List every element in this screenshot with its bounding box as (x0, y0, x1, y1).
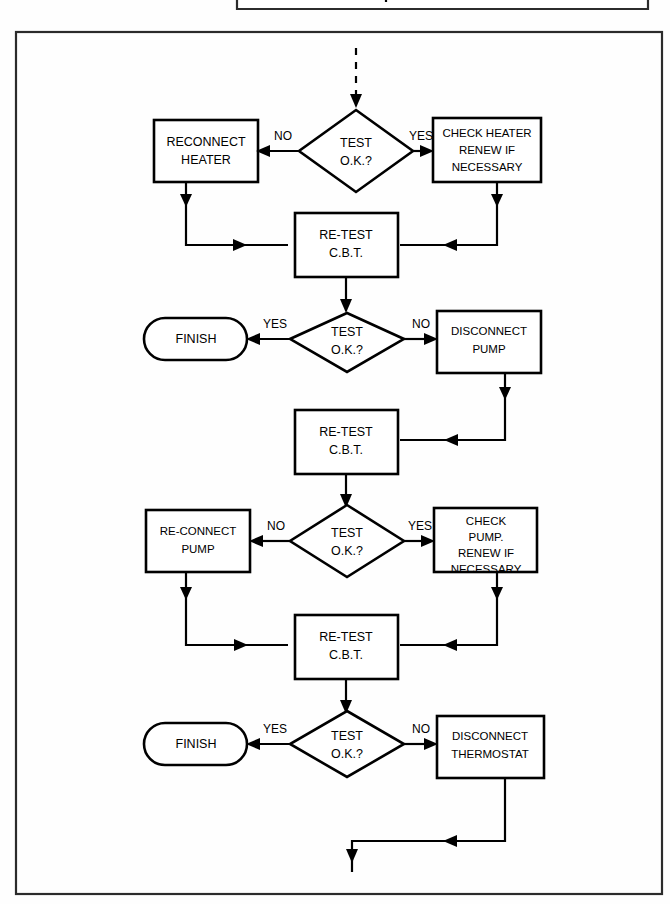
node-finish-2[interactable]: FINISH (144, 723, 247, 765)
arrowhead-down-5 (491, 587, 503, 600)
edge-label-no-1: NO (274, 129, 292, 143)
node-check-heater[interactable]: CHECK HEATER RENEW IF NECESSARY (433, 118, 541, 182)
node-retest-1-line2: C.B.T. (329, 246, 363, 260)
edge-check-pump-to-retest3 (400, 572, 503, 651)
arrowhead-mid-2 (443, 239, 457, 251)
edge-pump2-yes: YES (404, 519, 435, 547)
node-decision-thermostat-line2: O.K.? (331, 747, 363, 761)
arrowhead-down-1 (180, 194, 192, 207)
node-decision-pump-line1: TEST (331, 325, 363, 339)
edge-thermostat-yes-finish: YES (246, 722, 290, 750)
node-disconnect-thermostat[interactable]: DISCONNECT THERMOSTAT (437, 716, 544, 778)
node-retest-2[interactable]: RE-TEST C.B.T. (295, 410, 398, 474)
edge-reconnect-heater-to-retest1 (180, 182, 288, 251)
arrowhead-down-2 (491, 194, 503, 207)
edge-pump-yes-finish: YES (246, 317, 290, 345)
edge-pump2-no: NO (249, 519, 290, 547)
node-disconnect-pump-line2: PUMP (472, 343, 506, 355)
node-check-pump-line3: RENEW IF (458, 547, 514, 559)
node-reconnect-pump[interactable]: RE-CONNECT PUMP (146, 510, 250, 572)
node-reconnect-heater-line1: RECONNECT (166, 135, 246, 149)
node-disconnect-thermostat-line1: DISCONNECT (452, 730, 528, 742)
arrowhead-mid-1 (233, 239, 247, 251)
node-decision-thermostat[interactable]: TEST O.K.? (290, 711, 404, 777)
node-disconnect-pump[interactable]: DISCONNECT PUMP (437, 311, 541, 373)
node-reconnect-pump-line2: PUMP (181, 543, 215, 555)
node-decision-pump-2-line2: O.K.? (331, 544, 363, 558)
node-decision-heater[interactable]: TEST O.K.? (299, 110, 413, 192)
flowchart-canvas: TEST O.K.? RECONNECT HEATER CHECK HEATER… (0, 0, 670, 904)
edge-disconnect-pump-to-retest2 (400, 373, 511, 446)
edge-label-no-3: NO (267, 519, 285, 533)
edge-label-yes-1: YES (409, 129, 433, 143)
edge-label-no-4: NO (412, 722, 430, 736)
node-decision-pump[interactable]: TEST O.K.? (290, 313, 404, 372)
arrowhead-mid-3 (444, 434, 458, 446)
edge-pump-no-disconnect: NO (404, 317, 438, 345)
node-retest-2-line2: C.B.T. (329, 443, 363, 457)
node-finish-1-label: FINISH (176, 332, 217, 346)
node-decision-heater-line1: TEST (340, 136, 372, 150)
node-disconnect-thermostat-line2: THERMOSTAT (451, 748, 529, 760)
node-reconnect-heater[interactable]: RECONNECT HEATER (154, 120, 258, 182)
arrowhead-mid-5 (443, 639, 457, 651)
node-decision-pump-line2: O.K.? (331, 343, 363, 357)
node-check-pump-line4: NECESSARY (451, 563, 522, 575)
edge-label-yes-2: YES (263, 317, 287, 331)
page-frame-fragment-top (237, 0, 648, 9)
node-reconnect-heater-line2: HEATER (181, 153, 231, 167)
node-decision-heater-line2: O.K.? (340, 154, 372, 168)
edge-heater-yes: YES (409, 129, 434, 157)
edge-retest2-to-decision-pump2 (340, 474, 352, 508)
arrowhead-down-4 (180, 587, 192, 600)
exit-connector (346, 778, 505, 872)
node-check-pump-line2: PUMP. (469, 531, 504, 543)
edge-label-yes-3: YES (408, 519, 432, 533)
node-finish-1[interactable]: FINISH (144, 318, 247, 360)
exit-arrowhead-down (346, 849, 358, 863)
entry-arrowhead (350, 94, 362, 108)
flowchart-page: TEST O.K.? RECONNECT HEATER CHECK HEATER… (0, 0, 670, 904)
node-retest-2-line1: RE-TEST (319, 425, 373, 439)
node-check-heater-line1: CHECK HEATER (442, 127, 531, 139)
node-check-heater-line3: NECESSARY (452, 161, 523, 173)
node-decision-pump-2[interactable]: TEST O.K.? (290, 505, 404, 577)
entry-connector (350, 48, 362, 108)
node-retest-3-line2: C.B.T. (329, 648, 363, 662)
edge-retest1-to-decision-pump (340, 277, 352, 313)
node-check-heater-line2: RENEW IF (459, 144, 515, 156)
node-retest-1-line1: RE-TEST (319, 228, 373, 242)
exit-arrowhead-mid (443, 835, 457, 847)
edge-thermostat-no-disconnect: NO (404, 722, 438, 750)
edge-retest3-to-decision-thermostat (340, 679, 352, 714)
edge-check-heater-to-retest1 (400, 182, 503, 251)
node-decision-pump-2-line1: TEST (331, 526, 363, 540)
node-reconnect-pump-line1: RE-CONNECT (160, 525, 237, 537)
node-retest-1[interactable]: RE-TEST C.B.T. (295, 213, 398, 277)
node-decision-thermostat-line1: TEST (331, 729, 363, 743)
node-disconnect-pump-line1: DISCONNECT (451, 325, 527, 337)
node-finish-2-label: FINISH (176, 737, 217, 751)
edge-heater-no: NO (256, 129, 299, 157)
edge-label-yes-4: YES (263, 722, 287, 736)
arrowhead-down-3 (499, 387, 511, 400)
node-retest-3-line1: RE-TEST (319, 630, 373, 644)
edge-label-no-2: NO (412, 317, 430, 331)
node-check-pump-line1: CHECK (466, 515, 507, 527)
edge-reconnect-pump-to-retest3 (180, 572, 288, 651)
node-retest-3[interactable]: RE-TEST C.B.T. (295, 615, 398, 679)
arrowhead-mid-4 (234, 639, 248, 651)
node-check-pump[interactable]: CHECK PUMP. RENEW IF NECESSARY (434, 508, 537, 575)
